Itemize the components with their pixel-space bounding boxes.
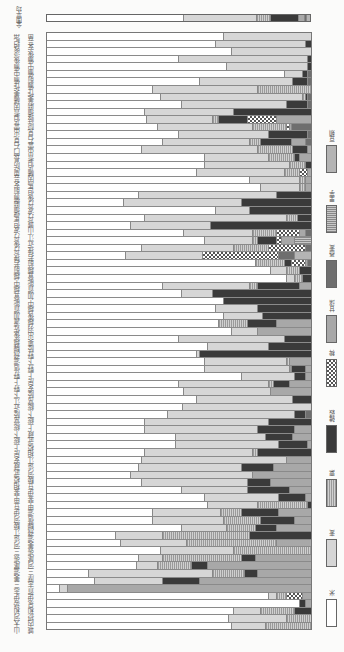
segment-rice: [47, 472, 131, 479]
segment-buckwheat: [308, 71, 311, 78]
segment-millet: [163, 555, 242, 562]
segment-wheat: [285, 71, 303, 78]
segment-wheat: [163, 283, 250, 290]
segment-rice: [47, 15, 184, 21]
segment-grain: [306, 41, 311, 48]
segment-grain: [248, 487, 290, 494]
segment-millet: [266, 623, 311, 630]
legend-swatch-wheat: [326, 539, 337, 567]
bar-row: [47, 396, 311, 404]
segment-rice: [47, 33, 224, 40]
bar-row: [47, 562, 311, 570]
segment-sweetpotato: [306, 366, 311, 373]
segment-hie: [277, 230, 301, 237]
segment-wheat: [269, 593, 277, 600]
legend-swatch-millet: [326, 479, 337, 507]
segment-millet: [219, 320, 248, 327]
segment-rice: [47, 184, 261, 191]
legend-item-taro: 里芋: [322, 190, 342, 233]
bar-row: [47, 585, 311, 593]
segment-wheat: [131, 472, 252, 479]
bar-row: [47, 298, 311, 306]
segment-sweetpotato: [287, 457, 311, 464]
bar-row: [47, 608, 311, 616]
segment-sweetpotato: [303, 593, 311, 600]
segment-rice: [47, 215, 145, 222]
segment-wheat: [224, 313, 264, 320]
segment-rice: [47, 48, 232, 55]
bar-row: [47, 139, 311, 147]
segment-grain: [234, 109, 311, 116]
segment-wheat: [116, 532, 164, 539]
segment-grain: [308, 63, 311, 70]
bar-row: [47, 313, 311, 321]
segment-rice: [47, 585, 60, 592]
segment-rice: [47, 177, 250, 184]
segment-wheat: [232, 623, 266, 630]
segment-wheat: [168, 411, 295, 418]
segment-wheat: [131, 222, 210, 229]
segment-hie: [292, 260, 305, 267]
segment-beans: [307, 15, 310, 21]
segment-millet: [213, 570, 245, 577]
legend-item-buckwheat: 蕎麦: [322, 245, 342, 288]
legend-swatch-hie: [326, 359, 337, 387]
segment-rice: [47, 388, 184, 395]
segment-millet: [253, 124, 287, 131]
bar-row: [47, 623, 311, 630]
bar-row: [47, 426, 311, 434]
segment-rice: [47, 320, 219, 327]
segment-millet: [287, 267, 300, 274]
bar-row: [47, 56, 311, 64]
segment-sweetpotato: [208, 562, 311, 569]
segment-grain: [285, 336, 311, 343]
segment-rice: [47, 131, 179, 138]
segment-rice: [47, 487, 182, 494]
segment-grain: [300, 267, 311, 274]
segment-rice: [47, 328, 232, 335]
bar-row: [47, 192, 311, 200]
legend-item-beans: 豆類: [322, 130, 342, 173]
segment-rice: [47, 63, 227, 70]
segment-grain: [258, 283, 300, 290]
segment-sweetpotato: [306, 177, 311, 184]
segment-beans: [295, 252, 311, 259]
segment-rice: [47, 547, 161, 554]
segment-hie: [300, 169, 308, 176]
segment-wheat: [182, 525, 227, 532]
segment-sweetpotato: [290, 358, 311, 365]
segment-wheat: [200, 78, 292, 85]
legend-swatch-taro: [326, 205, 337, 233]
segment-wheat: [95, 578, 164, 585]
legend-label: 稗: [328, 350, 336, 356]
segment-grain: [308, 502, 311, 509]
legend-swatch-buckwheat: [326, 260, 337, 288]
segment-wheat: [142, 245, 234, 252]
segment-hie: [248, 116, 277, 123]
segment-buckwheat: [308, 78, 311, 85]
segment-rice: [47, 570, 89, 577]
segment-sweetpotato: [308, 146, 311, 153]
segment-rice: [47, 555, 139, 562]
segment-sweetpotato: [274, 464, 311, 471]
segment-millet: [261, 608, 295, 615]
segment-grain: [261, 139, 293, 146]
segment-wheat: [158, 124, 253, 131]
segment-sweetpotato: [290, 487, 311, 494]
segment-rice: [47, 419, 145, 426]
segment-sweetpotato: [295, 426, 311, 433]
segment-wheat: [184, 388, 271, 395]
segment-buckwheat: [306, 139, 311, 146]
segment-rice: [47, 267, 271, 274]
segment-millet: [257, 15, 270, 21]
segment-grain: [303, 275, 311, 282]
segment-wheat: [145, 109, 235, 116]
segment-rice: [47, 56, 179, 63]
segment-rice: [47, 207, 216, 214]
segment-wheat: [197, 169, 284, 176]
segment-millet: [287, 215, 298, 222]
segment-grain: [224, 298, 311, 305]
segment-sweetpotato: [293, 434, 311, 441]
bar-row: [47, 479, 311, 487]
bar-row: [47, 381, 311, 389]
